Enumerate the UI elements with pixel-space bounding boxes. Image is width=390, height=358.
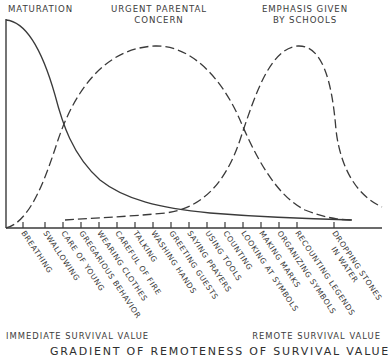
curve-urgent-parental-concern: [6, 46, 352, 228]
label-immediate-survival-value: IMMEDIATE SURVIVAL VALUE: [6, 331, 149, 341]
x-tick-labels: BREATHING SWALLOWING CARE OF YOUNG GREGA…: [19, 228, 383, 320]
x-axis-title: GRADIENT OF REMOTENESS OF SURVIVAL VALUE: [50, 345, 390, 358]
curve-emphasis-by-schools: [65, 46, 382, 220]
label-remote-survival-value: REMOTE SURVIVAL VALUE: [252, 331, 381, 341]
x-ticks: [23, 222, 334, 228]
